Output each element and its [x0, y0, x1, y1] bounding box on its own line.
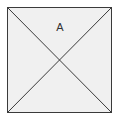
label-a: A — [56, 21, 64, 33]
square-diagram: A — [0, 0, 119, 116]
